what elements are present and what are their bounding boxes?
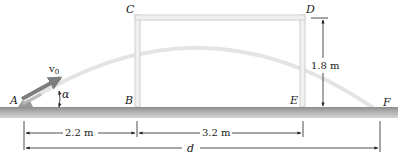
- label-v-subscript: 0: [55, 68, 59, 76]
- dimension-lines: 2.2 m 3.2 m d: [24, 121, 380, 155]
- trajectory-curve: [24, 48, 372, 107]
- dimension-AB-label: 2.2 m: [65, 127, 94, 138]
- frame-post-left: [135, 15, 140, 107]
- label-E: E: [289, 94, 298, 107]
- label-v0: v0: [48, 63, 59, 76]
- label-alpha: α: [62, 88, 70, 101]
- dimension-BE-label: 3.2 m: [202, 127, 231, 138]
- diagram-canvas: A B C D E F α v0 1.8 m 2.2 m 3.2 m d: [0, 0, 398, 157]
- frame-top-beam: [135, 15, 305, 20]
- label-B: B: [124, 94, 133, 107]
- label-C: C: [126, 3, 135, 16]
- label-A: A: [9, 94, 18, 107]
- label-F: F: [382, 96, 391, 109]
- dimension-height: 1.8 m: [311, 18, 340, 106]
- ground: [0, 107, 398, 118]
- label-D: D: [305, 3, 315, 16]
- projectile-diagram: A B C D E F α v0 1.8 m 2.2 m 3.2 m d: [0, 0, 398, 157]
- dimension-total-label: d: [187, 142, 194, 155]
- angle-arc: [59, 91, 60, 107]
- dimension-height-label: 1.8 m: [311, 60, 340, 71]
- frame-post-right: [300, 15, 305, 107]
